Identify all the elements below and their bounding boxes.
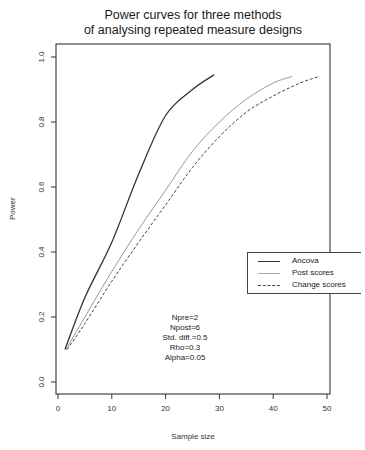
y-tick-label: 1.0 <box>37 51 46 63</box>
data-series <box>65 75 319 350</box>
param-rho: Rho=0.3 <box>130 343 240 353</box>
legend-label: Change scores <box>292 280 346 289</box>
x-tick-label: 50 <box>323 404 332 413</box>
legend-item-ancova: Ancova <box>248 255 361 267</box>
legend-swatch-light <box>258 273 280 274</box>
x-tick-label: 40 <box>269 404 278 413</box>
x-axis-label: Sample size <box>56 432 330 441</box>
change-scores-curve <box>67 77 319 350</box>
legend: Ancova Post scores Change scores <box>247 252 361 294</box>
y-tick-label: 0.2 <box>37 311 46 323</box>
legend-label: Ancova <box>292 256 319 265</box>
param-npre: Npre=2 <box>130 313 240 323</box>
x-tick-label: 0 <box>56 404 61 413</box>
y-tick-label: 0.8 <box>37 116 46 128</box>
legend-label: Post scores <box>292 268 334 277</box>
x-tick-label: 30 <box>215 404 224 413</box>
param-std-diff: Std. diff.=0.5 <box>130 333 240 343</box>
legend-swatch-solid <box>258 261 280 262</box>
legend-item-post-scores: Post scores <box>248 267 361 279</box>
parameters-annotation: Npre=2 Npost=6 Std. diff.=0.5 Rho=0.3 Al… <box>130 313 240 363</box>
param-alpha: Alpha=0.05 <box>130 353 240 363</box>
legend-item-change-scores: Change scores <box>248 279 361 291</box>
y-tick-label: 0.0 <box>37 376 46 388</box>
y-tick-label: 0.4 <box>37 246 46 258</box>
plot-area: 010203040500.00.20.40.60.81.0 <box>0 0 365 450</box>
legend-swatch-dashed <box>258 285 280 286</box>
y-axis-label: Power <box>8 197 17 220</box>
x-tick-label: 20 <box>161 404 170 413</box>
ancova-curve <box>65 75 214 350</box>
y-tick-label: 0.6 <box>37 181 46 193</box>
post-scores-curve <box>66 77 292 350</box>
x-tick-label: 10 <box>107 404 116 413</box>
param-npost: Npost=6 <box>130 323 240 333</box>
